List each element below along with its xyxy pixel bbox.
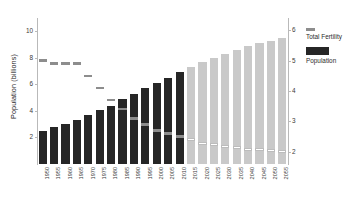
fertility-marker-2015 <box>187 138 195 141</box>
x-tick-1985: 1985 <box>125 167 131 179</box>
bar-2025 <box>210 58 218 164</box>
fertility-marker-2005 <box>164 132 172 134</box>
x-tick-2035: 2035 <box>239 167 245 179</box>
fertility-marker-1990 <box>130 117 138 119</box>
y-tick-right-3: 3 <box>292 118 314 124</box>
bar-2040 <box>244 46 252 164</box>
fertility-marker-1955 <box>50 62 58 64</box>
fertility-marker-2040 <box>244 148 252 151</box>
bar-1980 <box>107 106 115 164</box>
y-tick-left-4: 4 <box>9 108 33 114</box>
y-tick-right-2: 2 <box>292 149 314 155</box>
bar-1975 <box>96 110 104 164</box>
fertility-marker-2025 <box>210 143 218 146</box>
x-tick-2005: 2005 <box>170 167 176 179</box>
legend-label-population: Population <box>306 57 342 64</box>
bar-1970 <box>84 115 92 164</box>
fertility-marker-1965 <box>73 62 81 64</box>
y-tick-left-8: 8 <box>9 55 33 61</box>
fertility-marker-1985 <box>118 108 126 110</box>
legend-swatch-population <box>306 47 329 55</box>
y-tick-mark-right <box>288 91 291 92</box>
plot-area <box>37 18 288 164</box>
y-tick-mark-right <box>288 152 291 153</box>
x-tick-2030: 2030 <box>227 167 233 179</box>
bar-2020 <box>198 62 206 164</box>
bar-1995 <box>141 88 149 164</box>
fertility-marker-1960 <box>61 62 69 64</box>
x-tick-2000: 2000 <box>159 167 165 179</box>
bar-1950 <box>39 131 47 164</box>
bar-2055 <box>278 38 286 164</box>
x-tick-2020: 2020 <box>205 167 211 179</box>
y-tick-mark-right <box>288 61 291 62</box>
fertility-marker-2030 <box>221 145 229 148</box>
x-tick-1960: 1960 <box>68 167 74 179</box>
bar-2050 <box>267 41 275 164</box>
population-fertility-chart: Population (billions) 108642 65432 19501… <box>0 0 358 211</box>
x-tick-1975: 1975 <box>102 167 108 179</box>
x-tick-1955: 1955 <box>56 167 62 179</box>
x-tick-2045: 2045 <box>262 167 268 179</box>
y-tick-right-4: 4 <box>292 88 314 94</box>
fertility-marker-1980 <box>107 99 115 101</box>
x-tick-2055: 2055 <box>284 167 290 179</box>
y-tick-left-6: 6 <box>9 81 33 87</box>
x-tick-1995: 1995 <box>148 167 154 179</box>
legend-item-fertility: Total Fertility <box>306 28 342 40</box>
fertility-marker-2055 <box>278 150 286 153</box>
x-tick-1980: 1980 <box>113 167 119 179</box>
x-tick-1950: 1950 <box>45 167 51 179</box>
fertility-marker-1950 <box>39 59 47 61</box>
fertility-marker-2050 <box>267 149 275 152</box>
fertility-marker-2020 <box>198 142 206 145</box>
fertility-marker-2000 <box>153 129 161 131</box>
y-tick-mark-right <box>288 30 291 31</box>
legend-item-population: Population <box>306 47 342 64</box>
fertility-marker-1995 <box>141 123 149 125</box>
fertility-marker-2010 <box>176 135 184 137</box>
chart-legend: Total Fertility Population <box>306 28 342 67</box>
x-tick-2015: 2015 <box>193 167 199 179</box>
bar-2005 <box>164 78 172 164</box>
fertility-marker-1970 <box>84 75 92 77</box>
bar-2045 <box>255 43 263 164</box>
bar-1955 <box>50 127 58 164</box>
bar-2010 <box>176 72 184 164</box>
x-tick-1990: 1990 <box>136 167 142 179</box>
bar-1965 <box>73 120 81 164</box>
x-tick-2025: 2025 <box>216 167 222 179</box>
y-tick-left-10: 10 <box>9 28 33 34</box>
legend-label-fertility: Total Fertility <box>306 33 342 40</box>
y-tick-left-2: 2 <box>9 134 33 140</box>
x-tick-2010: 2010 <box>182 167 188 179</box>
x-tick-1970: 1970 <box>91 167 97 179</box>
bar-1990 <box>130 94 138 164</box>
x-tick-2050: 2050 <box>273 167 279 179</box>
y-tick-mark-right <box>288 121 291 122</box>
bar-1960 <box>61 124 69 164</box>
bar-2015 <box>187 67 195 164</box>
x-tick-1965: 1965 <box>79 167 85 179</box>
fertility-marker-2045 <box>255 148 263 151</box>
bar-2000 <box>153 83 161 164</box>
fertility-marker-2035 <box>233 146 241 149</box>
x-tick-2040: 2040 <box>250 167 256 179</box>
fertility-marker-1975 <box>96 87 104 89</box>
legend-swatch-fertility <box>306 28 315 31</box>
